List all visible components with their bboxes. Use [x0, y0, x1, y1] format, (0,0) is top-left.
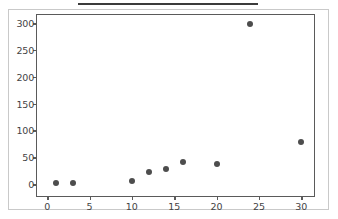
x-tick-label: 25	[253, 201, 265, 212]
x-tick-mark	[259, 196, 261, 200]
scatter-point	[53, 180, 59, 186]
x-tick-label: 0	[44, 201, 50, 212]
x-tick-label: 20	[211, 201, 223, 212]
y-tick-label: 300	[16, 18, 34, 29]
x-tick-mark	[132, 196, 134, 200]
scatter-point	[163, 166, 169, 172]
y-tick-label: 150	[16, 98, 34, 109]
x-tick-mark	[47, 196, 49, 200]
y-tick-label: 250	[16, 44, 34, 55]
x-tick-label: 10	[126, 201, 138, 212]
page-top-rule	[78, 3, 258, 5]
scatter-point	[129, 178, 135, 184]
scatter-plot-axes: 050100150200250300 051015202530	[36, 14, 315, 197]
scatter-point	[247, 21, 253, 27]
y-tick-label: 200	[16, 71, 34, 82]
scatter-point	[214, 161, 220, 167]
figure-frame: 050100150200250300 051015202530	[8, 9, 329, 210]
x-tick-label: 30	[295, 201, 307, 212]
x-tick-mark	[174, 196, 176, 200]
x-tick-label: 15	[168, 201, 180, 212]
x-tick-label: 5	[86, 201, 92, 212]
x-tick-mark	[301, 196, 303, 200]
scatter-point	[298, 139, 304, 145]
y-tick-label: 0	[28, 179, 34, 190]
y-tick-label: 100	[16, 125, 34, 136]
scatter-point	[146, 169, 152, 175]
scatter-point	[70, 180, 76, 186]
x-tick-mark	[90, 196, 92, 200]
scatter-point	[180, 159, 186, 165]
y-tick-label: 50	[22, 152, 34, 163]
x-tick-mark	[217, 196, 219, 200]
